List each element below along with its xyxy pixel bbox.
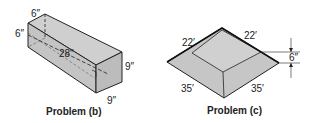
label-c-top-right: 22′ [244, 30, 257, 41]
label-b-left-height: 6″ [15, 28, 25, 39]
label-c-height: 6″ [289, 52, 299, 63]
label-c-bottom-right: 35′ [251, 83, 264, 94]
caption-b: Problem (b) [46, 106, 102, 117]
label-c-bottom-left: 35′ [181, 83, 194, 94]
caption-c: Problem (c) [207, 105, 262, 116]
label-c-top-left: 22′ [182, 37, 195, 48]
label-b-bottom-width: 9″ [107, 95, 117, 106]
label-b-length: 28″ [59, 48, 74, 59]
figure-b-box [28, 14, 122, 93]
label-b-right-height: 9″ [125, 61, 135, 72]
diagram-canvas: 6″ 6″ 28″ 9″ 9″ Problem (b) 22′ 22′ 35′ … [0, 0, 317, 123]
label-b-top-depth: 6″ [31, 8, 41, 19]
